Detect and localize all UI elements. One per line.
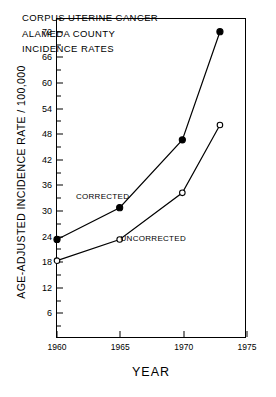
data-point-uncorrected <box>217 122 223 128</box>
y-tick-label: 42 <box>42 155 52 165</box>
data-point-corrected <box>217 29 223 35</box>
y-tick-label: 12 <box>42 283 52 293</box>
y-tick-label: 6 <box>47 308 52 318</box>
data-point-uncorrected <box>54 258 60 264</box>
data-point-corrected <box>54 236 60 242</box>
y-tick-label: 24 <box>42 232 52 242</box>
data-point-corrected <box>179 137 185 143</box>
y-tick-label: 48 <box>42 129 52 139</box>
x-tick-label: 1965 <box>111 342 130 352</box>
y-tick-label: 30 <box>42 206 52 216</box>
x-tick-label: 1975 <box>238 342 257 352</box>
y-tick-label: 18 <box>42 257 52 267</box>
x-tick-mark <box>247 331 248 337</box>
y-tick-label: 36 <box>42 180 52 190</box>
y-tick-label: 60 <box>42 78 52 88</box>
data-point-uncorrected <box>180 190 186 196</box>
y-axis-title: AGE-ADJUSTED INCIDENCE RATE / 100,000 <box>15 17 27 347</box>
series-label-corrected: CORRECTED <box>76 192 129 201</box>
y-tick-label: 66 <box>42 52 52 62</box>
y-tick-label: 54 <box>42 104 52 114</box>
y-tick-label: 72 <box>42 27 52 37</box>
chart-figure: AGE-ADJUSTED INCIDENCE RATE / 100,000 CO… <box>0 0 276 397</box>
x-axis-title: YEAR <box>56 365 246 379</box>
series-line-corrected <box>57 32 220 240</box>
series-layer <box>57 19 245 337</box>
x-tick-label: 1970 <box>174 342 193 352</box>
x-tick-label: 1960 <box>48 342 67 352</box>
data-point-corrected <box>117 205 123 211</box>
series-label-uncorrected: UNCORRECTED <box>121 234 187 243</box>
plot-area: 61218243036424854606672 1960196519701975… <box>56 18 246 338</box>
